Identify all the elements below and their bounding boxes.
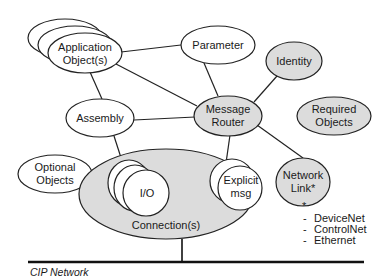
- network-link-label-1: Network: [283, 169, 324, 181]
- message-router-label-1: Message: [206, 103, 251, 115]
- edge-app-parameter: [121, 45, 181, 52]
- message-router-label-2: Router: [211, 116, 244, 128]
- io-label: I/O: [140, 187, 155, 199]
- edge-app-assembly: [90, 72, 102, 99]
- edge-parameter-router: [204, 63, 218, 96]
- network-link-label-2: Link*: [291, 182, 316, 194]
- assembly-label: Assembly: [76, 112, 124, 124]
- optional-objects-label-1: Optional: [35, 161, 76, 173]
- explicit-msg-label-2: msg: [231, 187, 252, 199]
- required-objects-label-1: Required: [312, 103, 357, 115]
- edge-identity-router: [254, 76, 277, 102]
- required-objects-label-2: Objects: [315, 116, 353, 128]
- footnote-marker: *: [302, 200, 307, 212]
- parameter-label: Parameter: [192, 39, 244, 51]
- connections-label: Connection(s): [132, 219, 200, 231]
- identity-label: Identity: [276, 55, 312, 67]
- application-objects-label-1: Application: [58, 41, 112, 53]
- cip-network-label: CIP Network: [30, 266, 89, 278]
- explicit-msg-label-1: Explicit: [224, 174, 259, 186]
- application-objects-label-2: Object(s): [63, 54, 108, 66]
- cip-object-diagram: Application Object(s) Parameter Identity…: [0, 0, 388, 278]
- footnote-bullet-3: -: [303, 234, 307, 246]
- optional-objects-label-2: Objects: [36, 174, 74, 186]
- edge-router-networklink: [257, 125, 303, 158]
- edge-assembly-router: [134, 117, 195, 120]
- edge-app-router: [116, 64, 197, 106]
- footnote-item-ethernet: Ethernet: [314, 234, 356, 246]
